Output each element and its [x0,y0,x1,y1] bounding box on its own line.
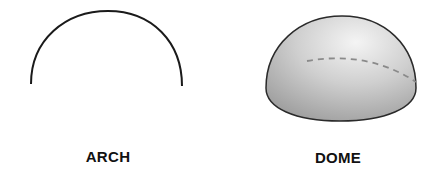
dome-shape [266,16,416,121]
arch-label: ARCH [86,148,131,165]
dome-label: DOME [315,149,361,166]
arch-shape [31,11,182,86]
diagram-canvas [0,0,442,174]
